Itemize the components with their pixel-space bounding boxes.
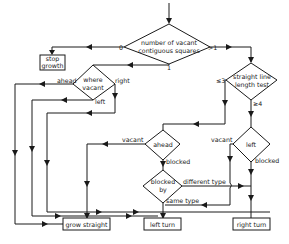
decision-where-vacant: where vacant [73, 65, 115, 100]
edge-label-blocked-ahead: blocked [166, 158, 190, 165]
blocked-by-line1: blocked [151, 178, 175, 185]
edge-label-vacant-ahead: vacant [122, 136, 144, 143]
where-vacant-line1: where [83, 76, 102, 83]
right-turn-box: right turn [233, 218, 270, 230]
number-vacant-line1: number of vacant [141, 39, 198, 46]
blocked-by-line2: by [159, 186, 167, 194]
edge-ahead-vacant: vacant [84, 136, 145, 219]
ahead-label: ahead [153, 141, 173, 148]
stop-growth-line2: growth [42, 62, 64, 70]
edge-label-ahead: ahead [57, 77, 77, 84]
edge-label-ge-four: ≥4 [253, 100, 262, 107]
stop-growth-box: stop growth [40, 55, 65, 70]
decision-ahead: ahead [145, 130, 180, 160]
where-vacant-line2: vacant [82, 84, 104, 91]
edge-label-blocked-left: blocked [255, 157, 279, 164]
edge-where-left: left [29, 97, 158, 219]
edge-left-blocked: blocked [248, 157, 279, 225]
straight-test-line1: straight line [233, 73, 271, 81]
decision-number-vacant: number of vacant contiguous squares [124, 24, 210, 64]
edge-le-three: ≤3 [163, 77, 228, 130]
edge-label-left: left [95, 98, 106, 105]
left-turn-box: left turn [144, 218, 181, 230]
edge-ge-four: ≥4 [248, 100, 262, 127]
edge-label-right: right [115, 77, 130, 85]
edge-different-type: different type [182, 178, 251, 189]
edge-label-different-type: different type [183, 178, 226, 186]
edge-label-vacant-left: vacant [211, 136, 233, 143]
edge-one-to-where-vacant: 1 [93, 62, 171, 71]
edge-ahead-blocked: blocked [160, 158, 190, 170]
right-turn-label: right turn [237, 221, 267, 229]
straight-test-line2: length test [235, 81, 270, 89]
edge-label-same-type: same type [166, 197, 199, 205]
edge-gt-one-to-straight-test: >1 [208, 44, 254, 63]
entry-arrow [166, 3, 172, 24]
number-vacant-line2: contiguous squares [138, 47, 199, 55]
left-decision-label: left [246, 141, 257, 148]
flowchart-diagram: number of vacant contiguous squares 0 st… [0, 0, 289, 244]
grow-straight-label: grow straight [66, 221, 108, 229]
left-turn-label: left turn [150, 221, 175, 228]
grow-straight-box: grow straight [63, 218, 110, 230]
edge-zero-to-stop: 0 [49, 44, 124, 55]
edge-label-le-three: ≤3 [216, 77, 225, 84]
decision-straight-line-test: straight line length test [226, 63, 277, 100]
